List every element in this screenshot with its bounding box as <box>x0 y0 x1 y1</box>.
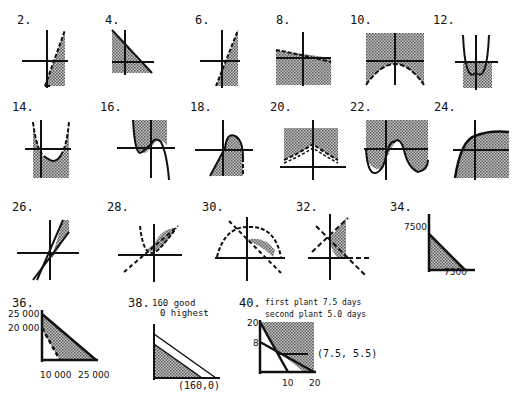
problem-label-26: 26. <box>12 200 34 214</box>
problem-label-32: 32. <box>296 200 318 214</box>
graph-problem-8 <box>276 30 331 88</box>
graph-problem-22 <box>364 120 430 182</box>
graph-problem-4 <box>110 28 155 83</box>
p38-answer-line1: 160 good <box>152 298 195 308</box>
problem-label-8: 8. <box>276 13 290 27</box>
problem-label-38: 38. <box>128 296 150 310</box>
problem-label-40: 40. <box>239 296 261 310</box>
p40-x-label-20: 20 <box>309 378 320 388</box>
problem-label-18: 18. <box>190 100 212 114</box>
graph-problem-26 <box>17 218 82 283</box>
p36-y-label-20000: 20 000 <box>8 323 40 333</box>
problem-label-10: 10. <box>350 13 372 27</box>
p36-y-label-25000: 25 000 <box>8 309 40 319</box>
problem-label-24: 24. <box>434 100 456 114</box>
problem-label-30: 30. <box>202 200 224 214</box>
problem-label-20: 20. <box>270 100 292 114</box>
problem-label-36: 36. <box>12 296 34 310</box>
graph-problem-40 <box>258 320 318 375</box>
problem-label-16: 16. <box>100 100 122 114</box>
problem-label-28: 28. <box>107 200 129 214</box>
graph-problem-30 <box>215 215 285 285</box>
graph-problem-20 <box>280 118 346 180</box>
graph-problem-36 <box>38 310 100 365</box>
problem-label-12: 12. <box>433 13 455 27</box>
problem-label-22: 22. <box>350 100 372 114</box>
p38-point-label: (160,0) <box>178 380 220 391</box>
graph-problem-14 <box>25 120 75 180</box>
graph-problem-24 <box>453 120 511 182</box>
problem-label-34: 34. <box>390 200 412 214</box>
p34-x-label: 7500 <box>444 267 467 277</box>
graph-problem-32 <box>308 214 373 284</box>
p40-answer-line2: second plant 5.0 days <box>265 310 366 319</box>
p38-answer-line2: 0 highest <box>160 308 209 318</box>
p40-answer-line1: first plant 7.5 days <box>265 298 361 307</box>
graph-problem-2 <box>20 28 70 88</box>
problem-label-6: 6. <box>195 13 209 27</box>
p40-x-label-10: 10 <box>282 378 293 388</box>
p36-x-label-25000: 25 000 <box>78 370 110 380</box>
p40-point-label: (7.5, 5.5) <box>317 348 377 359</box>
p36-x-label-10000: 10 000 <box>40 370 72 380</box>
graph-problem-16 <box>117 118 177 180</box>
problem-label-14: 14. <box>12 100 34 114</box>
graph-problem-10 <box>366 33 426 88</box>
problem-label-4: 4. <box>105 13 119 27</box>
problem-label-2: 2. <box>17 13 31 27</box>
graph-problem-12 <box>455 33 500 90</box>
graph-problem-28 <box>118 222 183 284</box>
graph-problem-18 <box>195 118 255 180</box>
graph-problem-6 <box>198 28 243 88</box>
graph-problem-34 <box>425 212 480 274</box>
p40-y-label-20: 20 <box>247 318 258 328</box>
p34-y-label: 7500 <box>404 222 427 232</box>
